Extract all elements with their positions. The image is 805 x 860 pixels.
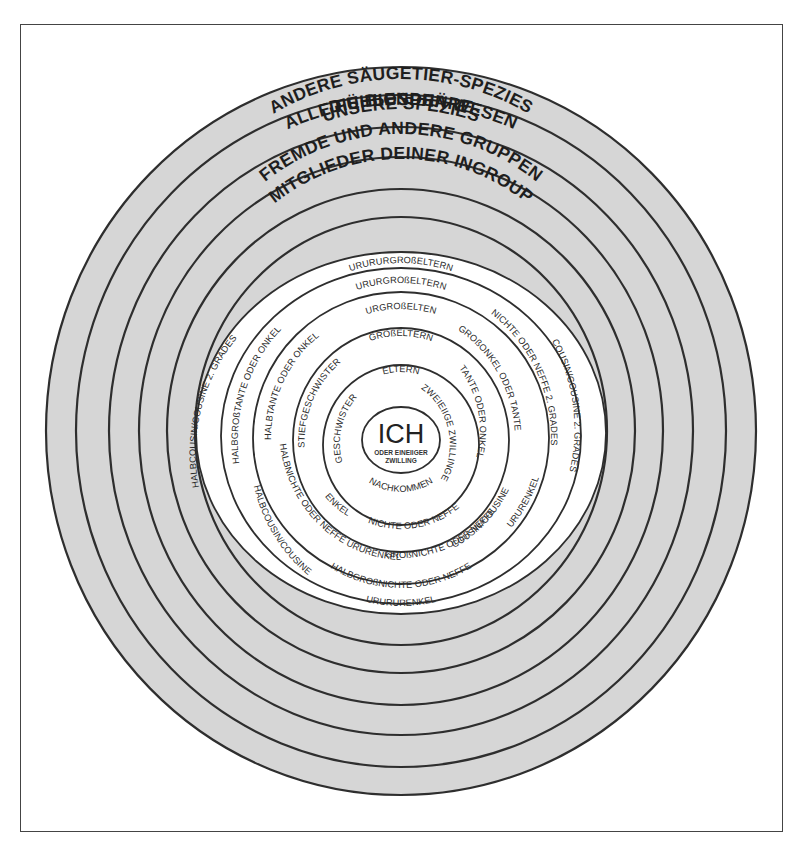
kinship-circles-diagram: DIE BIOSPHÄRE ALLE FÜHLENDEN WESEN ANDER… bbox=[0, 0, 805, 860]
label-ich: ICH bbox=[378, 419, 425, 449]
label-ich-sub-2: ZWILLING bbox=[385, 457, 416, 464]
label-ich-sub-1: ODER EINEIIGER bbox=[374, 449, 428, 456]
